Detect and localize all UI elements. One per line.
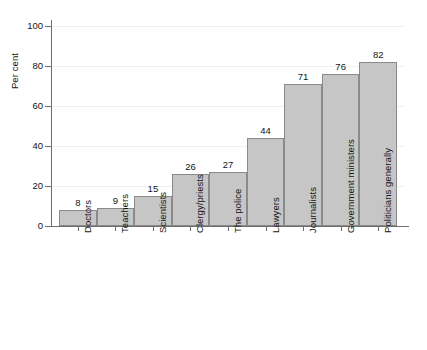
x-tick-mark [153,227,154,231]
x-tick-mark [78,227,79,231]
x-category-label: Lawyers [270,197,281,233]
x-category-label: Clergy/priests [194,174,205,233]
bar-value-label: 27 [209,159,247,170]
bar-value-label: 26 [172,161,210,172]
x-tick-mark [378,227,379,231]
bar-value-label: 76 [322,61,360,72]
plot-area [0,0,427,226]
x-tick-mark [266,227,267,231]
x-category-label: The police [232,189,243,233]
x-tick-mark [115,227,116,231]
bar-value-label: 71 [284,71,322,82]
x-category-label: Teachers [119,194,130,233]
x-tick-mark [303,227,304,231]
x-category-label: Journalists [307,187,318,233]
x-category-label: Doctors [82,200,93,233]
bar-value-label: 44 [247,125,285,136]
x-category-label: Scientists [157,192,168,233]
x-tick-mark [228,227,229,231]
x-category-label: Politicians generally [382,148,393,233]
bar-value-label: 82 [359,49,397,60]
x-tick-mark [190,227,191,231]
x-category-label: Government ministers [345,139,356,233]
x-tick-mark [341,227,342,231]
bar-chart: Per cent 020406080100 8Doctors9Teachers1… [0,0,427,350]
